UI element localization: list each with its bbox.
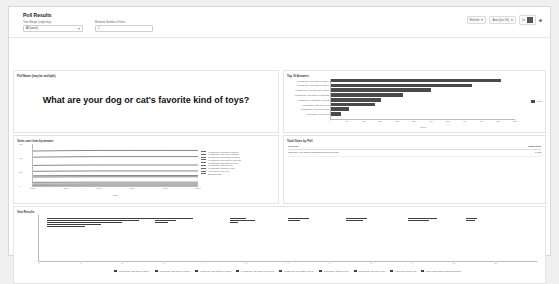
vote-results-bar[interactable] [466,220,474,222]
legend-item[interactable]: Anything they can cuddle or nap with [201,159,275,161]
top-answers-category-label: Anything they can chew or destroy [296,80,329,82]
column-header-poll-text[interactable]: Poll Text [288,145,298,148]
legend-label: Anything they can cuddle or nap with [208,159,241,161]
column-header-total-votes[interactable]: Total Votes [528,145,541,148]
top-answers-bar[interactable] [331,88,431,92]
legend-label: Anything they can chew or destroy [118,270,149,272]
legend-item[interactable]: Anything they can hide or bury [354,270,386,272]
legend-label: Anything they can cuddle or nap with [240,270,273,272]
x-axis-tick: 350 [446,120,449,122]
legend-item[interactable]: Anything they can chase or bat at [201,162,275,164]
legend-label: Anything they can chase or bat at [283,270,313,272]
legend-item[interactable]: Anything they can tug or pull [201,164,275,166]
legend-item[interactable]: Something else [201,173,275,175]
grid-view-icon[interactable] [527,17,533,23]
votes-over-time-x-label: Date [33,194,198,196]
legend-label: Anything they can fetch or retrieve [159,270,190,272]
vote-results-bar[interactable] [288,220,300,222]
top-answers-category-label: Anything they can squeak or crinkle [295,89,330,91]
legend-line-icon [201,173,206,174]
time-range-value: All (ranch) [26,27,38,30]
top-answers-bar[interactable] [331,103,375,107]
top-answers-bar-row: Anything they can chase or bat at [331,98,515,102]
votes-over-time-legend: Anything they can chew or destroyAnythin… [201,151,275,176]
legend-item[interactable]: Anything they can chew or destroy [114,270,149,272]
legend-line-icon [201,154,206,155]
top-answers-bar[interactable] [331,79,501,83]
legend-label: Some other answer participants picked [426,270,461,272]
legend-label: Anything they can tug or pull [208,164,234,166]
cell-poll-text: What are your dog or cat's favorite kind… [288,151,339,154]
legend-swatch-icon [354,270,357,272]
time-picker-group[interactable]: Auto (last 1h) [489,16,516,24]
legend-line-icon [201,165,206,166]
x-axis-tick: 3 [163,262,164,264]
vote-results-bar[interactable] [408,220,429,222]
legend-item[interactable]: Anything they can chew or destroy [201,151,275,153]
top-answers-bar[interactable] [331,112,341,116]
legend-label: I don't have a dog or cat [395,270,417,272]
chevron-down-icon [481,19,483,21]
top-answers-bar[interactable] [331,107,349,111]
legend-item[interactable]: Anything they can cuddle or nap with [236,270,274,272]
legend-swatch-icon [319,270,322,272]
refresh-group[interactable]: Refresh [467,16,487,24]
legend-item[interactable]: Some other answer participants picked [421,270,460,272]
legend-item[interactable]: Anything they can squeak or crinkle [195,270,232,272]
legend-label: Something else [208,173,222,175]
legend-label: Anything they can squeak or crinkle [199,270,231,272]
x-axis-tick: 50 [346,120,348,122]
vote-results-bar[interactable] [47,226,84,228]
top-answers-category-label: Anything they can hide or bury [300,108,330,110]
legend-line-icon [201,157,206,158]
legend-line-icon [201,162,206,163]
top-answers-bar-row: Anything they can squeak or crinkle [331,88,515,92]
legend-line-icon [201,159,206,160]
min-votes-input[interactable]: 1 [95,25,153,32]
more-options-icon[interactable] [539,19,542,22]
top-answers-bar-row: Anything they can chew or destroy [331,79,515,83]
vote-results-bar[interactable] [155,222,167,224]
panel-grid: Poll Name (may be multiple) What are you… [9,38,550,44]
top-answers-bar[interactable] [331,98,381,102]
legend-line-icon [201,151,206,152]
x-axis-tick: 1 [80,262,81,264]
votes-over-time-lines [33,144,198,186]
legend-item[interactable]: I don't have a dog or cat [201,170,275,172]
legend-item[interactable]: Anything they can squeak or crinkle [201,156,275,158]
legend-item[interactable]: Anything they can fetch or retrieve [201,153,275,155]
page-title: Poll Results [23,12,52,18]
y-axis-tick: 600 [19,143,22,145]
zoom-group[interactable]: 1x [519,15,536,25]
legend-line-icon [201,171,206,172]
legend-item[interactable]: Anything they can fetch or retrieve [155,270,190,272]
legend-swatch-icon [155,270,158,272]
dashboard-window: Poll Results Time Range (single day) All… [8,6,551,256]
filter-bar: Time Range (single day) All (ranch) Mini… [23,21,153,32]
time-range-label: Time Range (single day) [23,21,83,24]
x-axis-tick: 9 [412,262,413,264]
table-row[interactable]: What are your dog or cat's favorite kind… [288,150,541,157]
legend-label: Anything they can chew or destroy [208,151,239,153]
x-axis-tick: 10 [453,262,455,264]
top-answers-bar[interactable] [331,84,472,88]
top-answers-category-label: Anything they can fetch or retrieve [296,84,329,86]
top-answers-bar[interactable] [331,93,403,97]
legend-item[interactable]: I don't have a dog or cat [390,270,416,272]
table-body: What are your dog or cat's favorite kind… [288,150,541,157]
x-axis-tick: 4 [204,262,205,264]
legend-item[interactable]: Anything they can chase or bat at [279,270,314,272]
x-axis-tick: 450 [480,120,483,122]
x-axis-tick: 12:00 [30,187,35,189]
total-votes-table: Poll Text Total Votes What are your dog … [284,143,545,157]
x-axis-tick: 300 [429,120,432,122]
top-answers-category-label: I don't have a dog or cat [306,113,329,115]
y-axis-tick: 0 [19,185,20,187]
vote-results-bar[interactable] [346,220,363,222]
vote-results-bar[interactable] [230,222,238,224]
time-range-select[interactable]: All (ranch) [23,25,83,32]
legend-item[interactable]: Anything they can hide or bury [201,167,275,169]
legend-item[interactable]: Anything they can tug or pull [319,270,349,272]
panel-votes-over-time: Votes over time by answer Date 020040060… [13,135,279,204]
legend-swatch-icon [390,270,393,272]
